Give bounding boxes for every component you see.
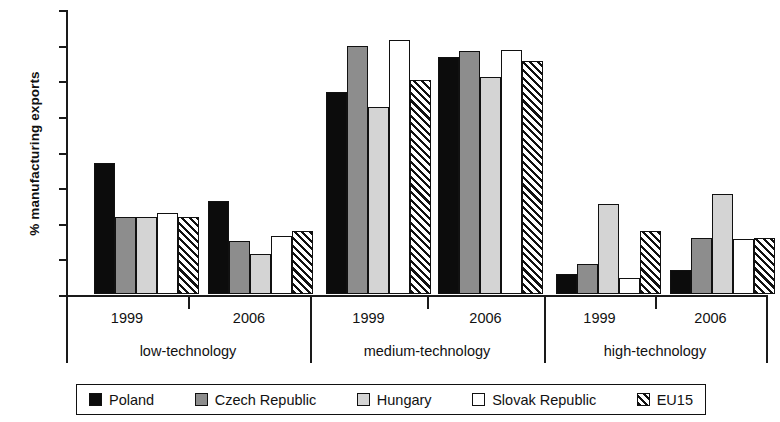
y-tick-mark xyxy=(59,117,66,119)
legend-swatch-diagonal-hatch xyxy=(637,393,650,406)
x-year-label: 2006 xyxy=(671,310,751,326)
bar-poland xyxy=(208,201,229,294)
legend-label: Slovak Republic xyxy=(492,392,596,408)
y-tick-mark xyxy=(59,81,66,83)
y-tick-mark xyxy=(59,259,66,261)
x-category-label: medium-technology xyxy=(317,343,537,359)
bar-slovak-republic xyxy=(271,236,292,294)
legend-swatch-solid-darkgray xyxy=(195,393,208,406)
bar-hungary xyxy=(250,254,271,294)
y-tick-mark xyxy=(59,224,66,226)
legend-item: EU15 xyxy=(637,392,693,408)
bar-slovak-republic xyxy=(733,239,754,294)
plot-area: 01020304050607080 xyxy=(66,10,766,296)
bar-slovak-republic xyxy=(619,278,640,294)
x-year-label: 1999 xyxy=(329,310,409,326)
group-separator xyxy=(66,295,68,363)
bar-slovak-republic xyxy=(389,40,410,294)
legend-label: Czech Republic xyxy=(215,392,317,408)
bar-group xyxy=(208,201,313,294)
y-tick-mark xyxy=(59,295,66,297)
group-separator xyxy=(766,295,768,363)
x-category-label: low-technology xyxy=(78,343,298,359)
bar-eu15 xyxy=(410,80,431,294)
y-axis-label: % manufacturing exports xyxy=(27,24,42,284)
bar-eu15 xyxy=(178,217,199,294)
bar-czech-republic xyxy=(229,241,250,294)
bar-slovak-republic xyxy=(157,213,178,294)
bar-group xyxy=(556,204,661,294)
group-separator xyxy=(310,295,312,363)
bar-hungary xyxy=(136,217,157,294)
bar-czech-republic xyxy=(577,264,598,294)
y-axis-line xyxy=(66,10,68,297)
bar-poland xyxy=(556,274,577,294)
bar-czech-republic xyxy=(115,217,136,294)
bar-poland xyxy=(326,92,347,294)
bar-group xyxy=(326,40,431,294)
x-year-label: 2006 xyxy=(446,310,526,326)
x-year-label: 1999 xyxy=(560,310,640,326)
x-category-label: high-technology xyxy=(545,343,765,359)
year-divider-tick xyxy=(188,295,190,309)
bar-eu15 xyxy=(754,238,775,294)
legend-item: Hungary xyxy=(357,392,432,408)
chart-legend: PolandCzech RepublicHungarySlovak Republ… xyxy=(76,384,706,415)
y-tick-mark xyxy=(59,188,66,190)
bar-group xyxy=(438,50,543,294)
year-divider-tick xyxy=(427,295,429,309)
legend-label: Hungary xyxy=(377,392,432,408)
bar-group xyxy=(670,194,775,294)
year-divider-tick xyxy=(655,295,657,309)
bar-group xyxy=(94,163,199,294)
legend-swatch-solid-lightgray xyxy=(357,393,370,406)
legend-label: EU15 xyxy=(657,392,693,408)
bar-slovak-republic xyxy=(501,50,522,294)
legend-item: Czech Republic xyxy=(195,392,317,408)
legend-swatch-solid-white xyxy=(472,393,485,406)
bar-hungary xyxy=(480,77,501,294)
bar-czech-republic xyxy=(347,46,368,294)
bar-eu15 xyxy=(292,231,313,294)
bar-eu15 xyxy=(522,61,543,294)
bar-hungary xyxy=(598,204,619,294)
bar-hungary xyxy=(712,194,733,294)
x-year-label: 2006 xyxy=(209,310,289,326)
bar-poland xyxy=(670,270,691,294)
legend-swatch-solid-black xyxy=(89,393,102,406)
bar-poland xyxy=(94,163,115,294)
bar-hungary xyxy=(368,107,389,294)
bar-czech-republic xyxy=(691,238,712,294)
y-tick-mark xyxy=(59,153,66,155)
x-axis-line xyxy=(66,295,766,297)
legend-item: Slovak Republic xyxy=(472,392,596,408)
bar-czech-republic xyxy=(459,51,480,294)
x-year-label: 1999 xyxy=(87,310,167,326)
bar-eu15 xyxy=(640,231,661,294)
chart-container: % manufacturing exports 0102030405060708… xyxy=(0,0,780,422)
legend-item: Poland xyxy=(89,392,154,408)
y-tick-mark xyxy=(59,10,66,12)
y-tick-mark xyxy=(59,46,66,48)
legend-label: Poland xyxy=(109,392,154,408)
bar-poland xyxy=(438,57,459,294)
